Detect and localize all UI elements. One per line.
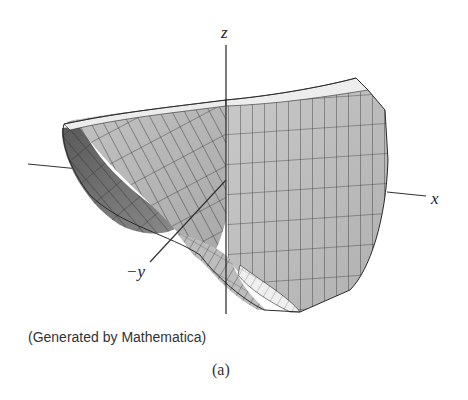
figure-caption: (Generated by Mathematica) (28, 329, 206, 345)
y-axis-label: −y (126, 263, 145, 280)
figure-sublabel: (a) (212, 361, 230, 379)
x-axis-label: x (431, 190, 439, 207)
x-axis-front (387, 192, 426, 196)
z-axis-label: z (221, 24, 228, 41)
surface-plot-figure: z x −y (Generated by Mathematica) (a) (0, 0, 468, 400)
